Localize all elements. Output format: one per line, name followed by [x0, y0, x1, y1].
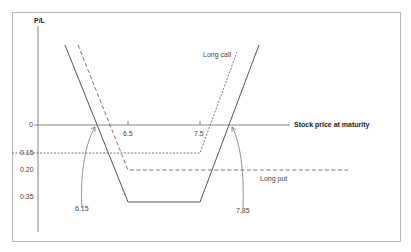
- y-tick-0: 0: [29, 121, 33, 128]
- breakeven-low-arrow: [82, 127, 95, 208]
- breakeven-low-label: 6.15: [75, 205, 89, 212]
- y-tick-020: 0.20: [20, 166, 34, 173]
- y-axis-label: P/L: [34, 17, 45, 24]
- tick-7-5: 7.5: [194, 130, 204, 137]
- y-tick-035: 0.35: [20, 193, 34, 200]
- breakeven-high-label: 7.85: [236, 207, 250, 214]
- breakeven-high-arrow: [232, 127, 243, 208]
- straddle-line: [65, 45, 259, 202]
- y-tick-015: 0.15: [20, 149, 34, 156]
- long-put-line: [78, 45, 348, 170]
- long-put-label: Long put: [260, 175, 287, 182]
- long-call-label: Long call: [203, 51, 231, 58]
- tick-6-5: 6.5: [123, 130, 133, 137]
- x-axis-label: Stock price at maturity: [294, 121, 369, 128]
- long-call-line: [12, 52, 237, 153]
